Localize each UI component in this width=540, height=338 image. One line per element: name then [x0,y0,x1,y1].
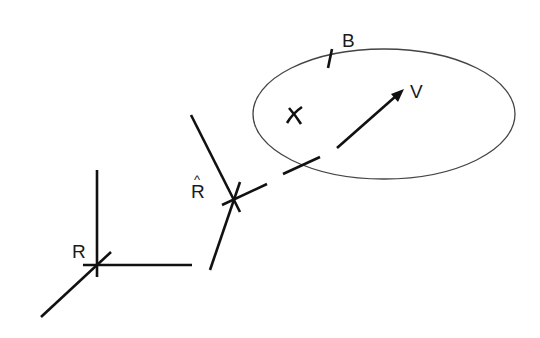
vector-v: V [337,81,423,148]
frame-r-hat-axis-lower [210,182,240,270]
frame-r-hat: R ^ [191,115,240,270]
label-b: B [342,30,355,51]
vector-v-shaft [337,96,396,148]
line-of-sight [222,157,320,205]
center-mark-icon [287,107,302,124]
body-b: B [253,30,515,179]
line-of-sight-segment-2 [283,157,320,174]
frame-r: R [41,170,192,317]
label-r: R [72,241,86,262]
diagram-canvas: B V R ^ R [0,0,540,338]
label-r-hat-accent: ^ [194,172,201,187]
body-b-boundary-tick [328,49,332,68]
label-v: V [410,81,423,102]
